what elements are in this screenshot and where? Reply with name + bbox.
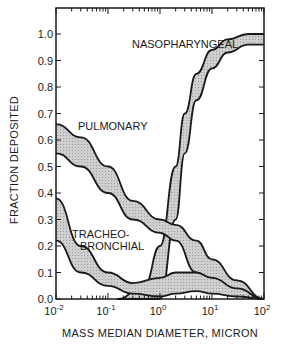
y-tick-label: 0.0 bbox=[38, 293, 53, 305]
y-tick-label: 0.3 bbox=[38, 214, 53, 226]
y-tick-label: 0.9 bbox=[38, 55, 53, 67]
label-pulmonary: PULMONARY bbox=[78, 120, 148, 132]
label-nasopharyngeal: NASOPHARYNGEAL bbox=[132, 38, 238, 50]
x-tick-label: 10-2 bbox=[44, 303, 64, 317]
x-tick-label: 102 bbox=[254, 303, 271, 317]
deposition-chart: 0.00.10.20.30.40.50.60.70.80.91.010-210-… bbox=[0, 0, 282, 346]
y-tick-label: 0.7 bbox=[38, 108, 53, 120]
y-tick-label: 0.6 bbox=[38, 134, 53, 146]
y-tick-label: 0.1 bbox=[38, 267, 53, 279]
y-tick-label: 1.0 bbox=[38, 28, 53, 40]
x-axis-title: MASS MEDIAN DIAMETER, MICRON bbox=[62, 327, 258, 339]
label-tracheo: TRACHEO- bbox=[72, 228, 130, 240]
label-bronchial: BRONCHIAL bbox=[80, 240, 144, 252]
x-tick-label: 101 bbox=[202, 303, 219, 317]
x-tick-label: 100 bbox=[150, 303, 167, 317]
x-tick-label: 10-1 bbox=[96, 303, 116, 317]
y-axis-title: FRACTION DEPOSITED bbox=[8, 96, 20, 224]
y-tick-label: 0.2 bbox=[38, 240, 53, 252]
deposition-bands bbox=[56, 34, 264, 299]
y-tick-label: 0.4 bbox=[38, 187, 53, 199]
y-tick-label: 0.5 bbox=[38, 161, 53, 173]
y-tick-label: 0.8 bbox=[38, 81, 53, 93]
